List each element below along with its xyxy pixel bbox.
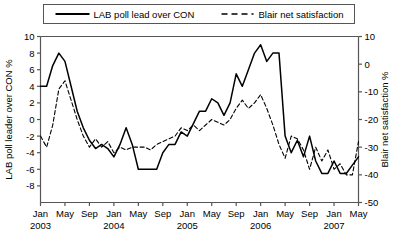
x-tick-label: May <box>56 208 74 219</box>
x-tick-label: May <box>350 208 368 219</box>
x-year-label: 2006 <box>250 220 271 231</box>
y-tick-label-right: -40 <box>365 169 379 180</box>
chart-container: LAB poll lead over CONBlair net satisfac… <box>0 0 397 243</box>
x-tick-label: Jan <box>253 208 268 219</box>
x-year-label: 2007 <box>323 220 344 231</box>
y-tick-label-left: -8 <box>26 180 34 191</box>
x-tick-label: Sep <box>154 208 171 219</box>
x-tick-label: Jan <box>180 208 195 219</box>
x-tick-label: Jan <box>326 208 341 219</box>
legend-label-lab-lead: LAB poll lead over CON <box>94 9 195 20</box>
y-tick-label-left: -2 <box>26 131 34 142</box>
chart-axes <box>37 37 362 207</box>
y-tick-label-left: 6 <box>29 64 34 75</box>
y-tick-label-right: -50 <box>365 197 379 208</box>
y-tick-label-left: 0 <box>29 114 34 125</box>
x-tick-label: May <box>129 208 147 219</box>
y-tick-label-right: -20 <box>365 114 379 125</box>
x-tick-label: May <box>203 208 221 219</box>
chart-legend: LAB poll lead over CONBlair net satisfac… <box>44 5 355 24</box>
y-tick-label-right: 0 <box>365 59 370 70</box>
x-tick-label: Sep <box>301 208 318 219</box>
line-chart: LAB poll lead over CONBlair net satisfac… <box>0 0 397 243</box>
x-tick-label: Sep <box>81 208 98 219</box>
y-tick-label-left: 4 <box>29 81 34 92</box>
y-axis-title-left: LAB poll leader over CON % <box>3 59 14 180</box>
series-line-2 <box>41 81 359 175</box>
y-tick-label-left: 8 <box>29 48 34 59</box>
y-tick-label-right: -10 <box>365 86 379 97</box>
x-tick-label: Sep <box>228 208 245 219</box>
x-year-label: 2005 <box>177 220 198 231</box>
x-year-label: 2004 <box>103 220 124 231</box>
x-tick-label: May <box>276 208 294 219</box>
y-tick-label-right: 10 <box>365 31 376 42</box>
x-tick-label: Jan <box>33 208 48 219</box>
x-year-label: 2003 <box>30 220 51 231</box>
y-tick-label-right: -30 <box>365 142 379 153</box>
y-axis-title-right: Blair net satisfaction % <box>379 71 390 168</box>
y-tick-label-left: 2 <box>29 97 34 108</box>
x-tick-label: Jan <box>106 208 121 219</box>
legend-label-blair-satisfaction: Blair net satisfaction <box>259 9 344 20</box>
y-tick-label-left: -6 <box>26 164 34 175</box>
y-tick-label-left: 10 <box>24 31 35 42</box>
chart-axis-labels: 1086420-2-4-6-8100-10-20-30-40-50JanMayS… <box>3 31 390 231</box>
y-tick-label-left: -4 <box>26 147 34 158</box>
series-line-1 <box>41 45 359 174</box>
chart-series <box>41 45 359 175</box>
